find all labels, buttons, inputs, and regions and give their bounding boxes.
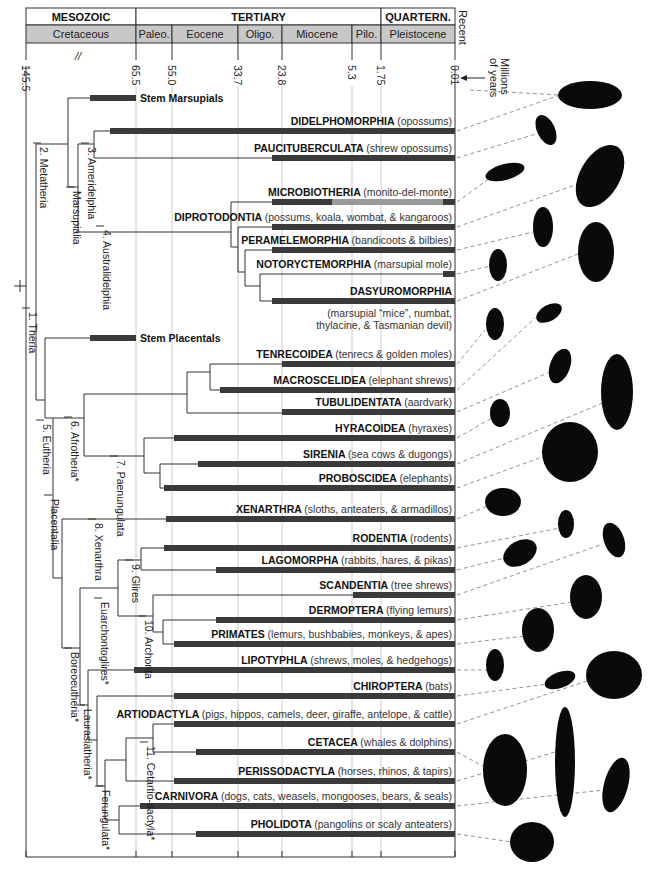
- taxon-label: PERISSODACTYLA (horses, rhinos, & tapirs…: [238, 765, 452, 777]
- lineage-bar: [353, 592, 455, 598]
- lineage-bar: [174, 778, 455, 784]
- taxon-label: CETACEA (whales & dolphins): [308, 736, 452, 748]
- era-label: QUARTERN.: [385, 11, 450, 23]
- taxon-name: PRIMATES: [211, 628, 267, 640]
- era-label: TERTIARY: [231, 11, 286, 23]
- tree-shrew-silhouette-icon: [598, 520, 629, 561]
- camel-silhouette-icon: [586, 651, 642, 699]
- taxon-label: DASYUROMORPHIA: [350, 285, 453, 297]
- lineage-bar: [443, 271, 455, 277]
- taxon-label: PHOLIDOTA (pangolins or scaly anteaters): [251, 818, 452, 830]
- hedgehog-silhouette-icon: [486, 649, 504, 681]
- stem-group-label: Stem Placentals: [140, 332, 221, 344]
- taxon-name: HYRACOIDEA: [335, 422, 408, 434]
- whale-silhouette-icon: [555, 707, 575, 817]
- taxon-common-name: (flying lemurs): [386, 604, 452, 616]
- bandicoot-silhouette-icon: [489, 249, 507, 281]
- taxon-common-name: (possums, koala, wombat, & kangaroos): [265, 211, 452, 223]
- taxon-name: PHOLIDOTA: [251, 818, 315, 830]
- manatee-silhouette-icon: [601, 354, 633, 430]
- epoch-label: Pilo.: [356, 28, 377, 40]
- taxon-label: LAGOMORPHA (rabbits, hares, & pikas): [262, 554, 452, 566]
- lineage-bar: [198, 461, 455, 467]
- time-tick-label: 5.3: [346, 65, 358, 80]
- taxon-name: XENARTHRA: [236, 503, 304, 515]
- taxon-common-name: (sea cows & dugongs): [348, 448, 452, 460]
- taxon-name: SCANDENTIA: [319, 579, 390, 591]
- lineage-bar: [164, 485, 455, 491]
- lineage-bar: [272, 247, 455, 253]
- taxon-label: TENRECOIDEA (tenrecs & golden moles): [256, 348, 452, 360]
- taxon-common-name: (bandicoots & bilbies): [352, 234, 452, 246]
- clade-label: Euarchontoglires*: [99, 602, 111, 685]
- taxon-common-name: (marsupial mole): [374, 258, 452, 270]
- rabbit-silhouette-icon: [498, 534, 541, 573]
- lineage-bar: [216, 617, 455, 623]
- taxon-name: PROBOSCIDEA: [319, 472, 400, 484]
- elephant-shrew-silhouette-icon: [533, 299, 565, 327]
- taxon-common-name: (aardvark): [404, 396, 452, 408]
- lineage-bar: [282, 409, 455, 415]
- taxon-common-name: (rodents): [410, 532, 452, 544]
- lineage-duration-bars: [90, 95, 455, 837]
- time-tick-label: 33.7: [232, 65, 244, 86]
- clade-label: Boreoeutheria*: [69, 652, 81, 722]
- taxon-common-name: (monito-del-monte): [363, 186, 452, 198]
- axis-note-label: of years: [488, 58, 500, 98]
- time-tick-label: 1.75: [375, 65, 387, 86]
- lineage-bar: [282, 361, 455, 367]
- clade-label: 11. Cetartio-dactyla*: [145, 746, 157, 840]
- taxon-name: SIRENIA: [303, 448, 348, 460]
- lineage-bar: [90, 95, 136, 101]
- taxon-name: DERMOPTERA: [309, 604, 386, 616]
- taxon-common-name: (elephants): [399, 472, 452, 484]
- taxon-name: LAGOMORPHA: [262, 554, 342, 566]
- taxon-common-name: (horses, rhinos, & tapirs): [338, 765, 452, 777]
- taxon-name: PERAMELEMORPHIA: [241, 234, 351, 246]
- lineage-bar: [196, 749, 455, 755]
- taxon-common-name: (shrew opossums): [366, 142, 452, 154]
- clade-label: 3. Ameridelphia: [86, 147, 98, 220]
- phylogeny-figure: MESOZOICTERTIARYQUARTERN.CretaceousPaleo…: [0, 0, 658, 884]
- clade-node-labels: 1. Theria2. MetatheriaMarsupialia3. Amer…: [22, 143, 157, 850]
- time-tick-label: 23.8: [276, 65, 288, 86]
- taxon-name: LIPOTYPHLA: [241, 654, 310, 666]
- clade-label: 7. Paenungulata: [115, 460, 127, 537]
- monkey-silhouette-icon: [522, 608, 554, 652]
- tasmanian-devil-silhouette-icon: [578, 222, 614, 282]
- tenrec-silhouette-icon: [486, 308, 504, 340]
- taxon-label: NOTORYCTEMORPHIA (marsupial mole): [256, 258, 452, 270]
- taxon-label: DERMOPTERA (flying lemurs): [309, 604, 452, 616]
- shrew-opossum-silhouette-icon: [531, 112, 561, 149]
- taxon-name: DASYUROMORPHIA: [350, 285, 453, 297]
- taxon-common-name: (hyraxes): [408, 422, 452, 434]
- clade-label: Laurasiatheria*: [82, 709, 94, 780]
- taxon-common-name: (shrews, moles, & hedgehogs): [310, 654, 452, 666]
- lineage-bar: [174, 435, 455, 441]
- taxon-common-name: (pangolins or scaly anteaters): [314, 818, 452, 830]
- time-break-mark: //: [74, 50, 82, 62]
- taxon-common-name: (whales & dolphins): [360, 736, 452, 748]
- clade-label: 5. Eutheria: [41, 424, 53, 475]
- taxon-common-name: (tenrecs & golden moles): [335, 348, 452, 360]
- clade-label: Ferungulata*: [100, 790, 112, 850]
- taxon-common-name: (lemurs, bushbabies, monkeys, & apes): [268, 628, 452, 640]
- taxon-common-name: (tree shrews): [391, 579, 452, 591]
- clade-label: 6. Afrotheria*: [69, 421, 81, 482]
- lineage-bar: [90, 335, 136, 341]
- lineage-bar: [166, 516, 455, 522]
- taxon-common-name: thylacine, & Tasmanian devil): [316, 319, 452, 331]
- recent-label: Recent: [457, 10, 469, 45]
- flying-lemur-silhouette-icon: [570, 575, 602, 619]
- rhino-silhouette-icon: [483, 734, 527, 806]
- lineage-bar: [272, 298, 455, 304]
- taxon-name: CHIROPTERA: [353, 680, 425, 692]
- lineage-bar: [272, 155, 455, 161]
- lineage-bar: [110, 128, 455, 134]
- taxon-label: TUBULIDENTATA (aardvark): [315, 396, 452, 408]
- opossum-silhouette-icon: [558, 81, 622, 109]
- aardvark-silhouette-icon: [544, 346, 575, 387]
- taxon-common-name: (bats): [425, 680, 452, 692]
- taxon-label: ARTIODACTYLA (pigs, hippos, camels, deer…: [116, 708, 452, 720]
- taxon-name: MACROSCELIDEA: [273, 374, 368, 386]
